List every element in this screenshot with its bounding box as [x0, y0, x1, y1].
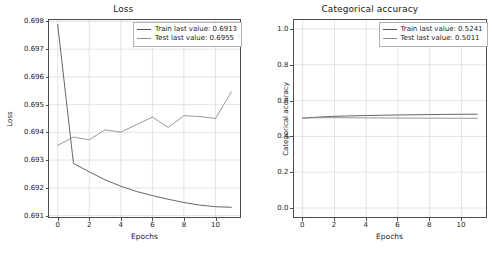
y-tick-loss-2: 0.693: [24, 156, 44, 164]
plot-area-loss: [48, 19, 241, 218]
y-axis-label-accuracy: Categorical accuracy: [281, 82, 289, 156]
legend-item-loss-0[interactable]: Train last value: 0.6913: [137, 25, 237, 34]
y-tick-loss-6: 0.697: [24, 45, 44, 53]
legend-line-icon: [137, 38, 151, 39]
y-tickmark-loss-5: [46, 77, 49, 78]
y-tickmark-accuracy-3: [290, 101, 293, 102]
chart-title-accuracy: Categorical accuracy: [247, 4, 493, 14]
legend-item-accuracy-0[interactable]: Train last value: 0.5241: [383, 25, 483, 34]
y-tickmark-accuracy-1: [290, 172, 293, 173]
plot-area-accuracy: [293, 19, 487, 218]
x-tickmark-loss-4: [184, 218, 185, 221]
y-tick-accuracy-5: 1.0: [277, 25, 288, 33]
y-tick-loss-4: 0.695: [24, 101, 44, 109]
y-tick-accuracy-0: 0.0: [277, 204, 288, 212]
legend-label: Train last value: 0.5241: [401, 25, 483, 34]
x-tickmark-loss-2: [121, 218, 122, 221]
x-tickmark-accuracy-0: [302, 218, 303, 221]
x-tick-accuracy-1: 2: [332, 221, 336, 229]
y-tick-loss-5: 0.696: [24, 73, 44, 81]
x-tickmark-accuracy-2: [366, 218, 367, 221]
x-tickmark-accuracy-1: [334, 218, 335, 221]
panel-loss: Loss Loss 0.6910.6920.6930.6940.6950.696…: [0, 0, 247, 260]
legend-loss[interactable]: Train last value: 0.6913Test last value:…: [133, 22, 242, 47]
y-tickmark-loss-0: [46, 216, 49, 217]
legend-item-loss-1[interactable]: Test last value: 0.6955: [137, 34, 237, 43]
y-tickmark-loss-1: [46, 188, 49, 189]
x-tick-accuracy-5: 10: [456, 221, 465, 229]
x-tick-accuracy-2: 4: [363, 221, 367, 229]
y-tick-accuracy-2: 0.4: [277, 132, 288, 140]
x-tick-loss-3: 6: [150, 221, 154, 229]
x-tick-loss-5: 10: [211, 221, 220, 229]
x-axis-label-accuracy: Epochs: [293, 232, 487, 241]
chart-title-loss: Loss: [0, 4, 247, 14]
x-tick-loss-4: 8: [182, 221, 186, 229]
y-tick-accuracy-3: 0.6: [277, 97, 288, 105]
y-tick-loss-0: 0.691: [24, 212, 44, 220]
legend-line-icon: [383, 38, 397, 39]
y-axis-label-loss: Loss: [6, 111, 14, 126]
x-tickmark-loss-3: [152, 218, 153, 221]
legend-label: Train last value: 0.6913: [155, 25, 237, 34]
y-tickmark-accuracy-4: [290, 65, 293, 66]
legend-accuracy[interactable]: Train last value: 0.5241Test last value:…: [379, 22, 488, 47]
y-tickmark-loss-3: [46, 132, 49, 133]
x-tickmark-loss-0: [58, 218, 59, 221]
y-tickmark-loss-6: [46, 49, 49, 50]
legend-line-icon: [383, 29, 397, 30]
legend-label: Test last value: 0.5011: [401, 34, 480, 43]
x-tick-loss-2: 4: [119, 221, 123, 229]
y-tickmark-accuracy-2: [290, 136, 293, 137]
y-tickmark-loss-7: [46, 21, 49, 22]
panel-accuracy: Categorical accuracy Categorical accurac…: [247, 0, 493, 260]
x-tickmark-accuracy-3: [397, 218, 398, 221]
x-tick-accuracy-3: 6: [395, 221, 399, 229]
y-tick-accuracy-4: 0.8: [277, 61, 288, 69]
y-tickmark-loss-2: [46, 160, 49, 161]
legend-item-accuracy-1[interactable]: Test last value: 0.5011: [383, 34, 483, 43]
loss-series-svg: [49, 20, 240, 217]
legend-label: Test last value: 0.6955: [155, 34, 234, 43]
x-tick-loss-1: 2: [87, 221, 91, 229]
x-tickmark-accuracy-4: [429, 218, 430, 221]
y-tick-accuracy-1: 0.2: [277, 168, 288, 176]
y-tick-loss-7: 0.698: [24, 17, 44, 25]
legend-line-icon: [137, 29, 151, 30]
x-tick-loss-0: 0: [55, 221, 59, 229]
x-tickmark-loss-1: [89, 218, 90, 221]
x-tickmark-accuracy-5: [461, 218, 462, 221]
y-tickmark-accuracy-0: [290, 208, 293, 209]
x-tick-accuracy-0: 0: [300, 221, 304, 229]
accuracy-series-svg: [294, 20, 486, 217]
x-axis-label-loss: Epochs: [48, 232, 241, 241]
x-tickmark-loss-5: [216, 218, 217, 221]
y-tickmark-loss-4: [46, 105, 49, 106]
y-tick-loss-1: 0.692: [24, 184, 44, 192]
y-tickmark-accuracy-5: [290, 29, 293, 30]
y-tick-loss-3: 0.694: [24, 128, 44, 136]
figure-canvas: Loss Loss 0.6910.6920.6930.6940.6950.696…: [0, 0, 493, 260]
x-tick-accuracy-4: 8: [427, 221, 431, 229]
